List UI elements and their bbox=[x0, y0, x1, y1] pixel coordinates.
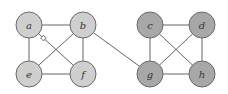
node-h: h bbox=[189, 61, 215, 87]
node-label: c bbox=[147, 20, 153, 31]
edges-layer bbox=[29, 25, 202, 74]
node-label: a bbox=[26, 20, 32, 31]
node-label: g bbox=[147, 69, 153, 80]
node-label: d bbox=[199, 20, 205, 31]
node-label: b bbox=[80, 20, 86, 31]
node-label: h bbox=[199, 69, 205, 80]
node-c: c bbox=[137, 12, 163, 38]
nodes-layer: abefcdgh bbox=[16, 12, 215, 87]
node-a: a bbox=[16, 12, 42, 38]
node-d: d bbox=[189, 12, 215, 38]
graph-diagram: abefcdgh bbox=[0, 0, 228, 94]
node-f: f bbox=[70, 61, 96, 87]
edge-b-g bbox=[93, 33, 139, 67]
node-e: e bbox=[16, 61, 42, 87]
node-label: e bbox=[26, 69, 32, 80]
node-b: b bbox=[70, 12, 96, 38]
node-g: g bbox=[137, 61, 163, 87]
